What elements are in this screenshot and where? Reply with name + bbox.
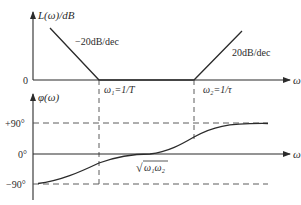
tick-plus-90: +90° [5,118,25,129]
magnitude-zero-label: 0 [23,75,28,86]
crossing-value: ω₁ω₂ [144,162,166,173]
phase-x-label: ω [293,148,301,160]
sqrt-symbol: √ [136,161,143,175]
magnitude-x-label: ω [293,74,301,86]
crossing-label: √ ω₁ω₂ [136,161,168,175]
breakpoint-label-2: ω₂=1/τ [203,84,232,95]
bode-diagram: L(ω)/dB ω 0 −20dB/dec 20dB/dec ω₁=1/T ω₂… [0,0,301,205]
phase-plot: φ(ω) ω +90° 0° −90° √ ω₁ω₂ [5,91,301,200]
magnitude-y-label: L(ω)/dB [37,9,75,22]
slope-label-low: −20dB/dec [75,36,120,47]
breakpoint-label-1: ω₁=1/T [104,84,136,95]
tick-minus-90: −90° [6,179,26,190]
slope-label-high: 20dB/dec [232,47,271,58]
magnitude-plot: L(ω)/dB ω 0 −20dB/dec 20dB/dec ω₁=1/T ω₂… [23,9,301,95]
phase-y-label: φ(ω) [38,91,60,104]
tick-zero: 0° [18,149,27,160]
